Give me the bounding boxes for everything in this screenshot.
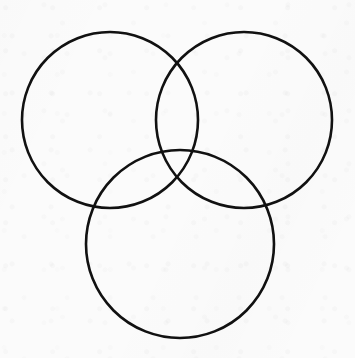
venn-diagram-figure: Three-circle Venn diagram: [0, 0, 355, 358]
circle-group: [22, 32, 332, 338]
venn-diagram-canvas: Three-circle Venn diagram: [0, 0, 355, 358]
top-right-circle: [156, 32, 332, 208]
bottom-circle: [86, 150, 274, 338]
